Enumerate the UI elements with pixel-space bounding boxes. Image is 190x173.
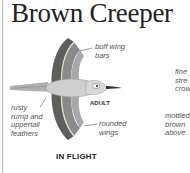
annotation-line: bars — [95, 52, 125, 61]
annotation-line: crow — [175, 85, 190, 94]
annotation-mottled-brown-above: mottled brown above — [165, 112, 190, 138]
annotation-fine-streaked-crown: fine stre crow — [175, 68, 190, 94]
bill-icon — [106, 86, 122, 89]
annotation-buff-wing-bars: buff wing bars — [95, 43, 125, 60]
annotation-line: feathers — [11, 130, 43, 139]
bird-illustration — [0, 0, 190, 173]
annotation-line: above — [165, 129, 190, 138]
annotation-line: wings — [99, 129, 127, 138]
adult-label: ADULT — [90, 100, 110, 106]
section-label-in-flight: IN FLIGHT — [56, 152, 97, 161]
annotation-rusty-rump: rusty rump and uppertail feathers — [11, 104, 43, 138]
annotation-rounded-wings: rounded wings — [99, 120, 127, 137]
